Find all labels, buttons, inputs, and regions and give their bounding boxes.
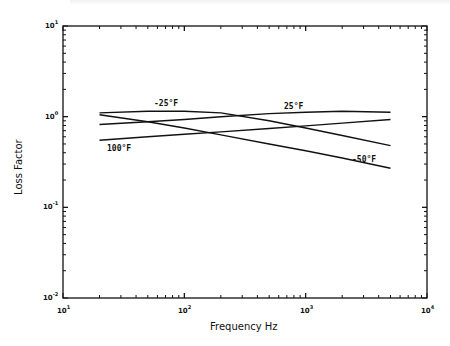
y-tick-10-minus2: 10-2 (43, 291, 59, 302)
x-tick-10-2: 102 (178, 304, 192, 315)
y-axis-title: Loss Factor (13, 138, 24, 195)
curve-label-25f: 25°F (284, 102, 303, 111)
x-tick-10-3: 103 (300, 304, 314, 315)
x-tick-labels: 101 102 103 104 (57, 304, 435, 315)
x-tick-10-4: 104 (421, 304, 435, 315)
y-tick-10-1: 101 (45, 19, 59, 30)
x-tick-10-1: 101 (57, 304, 71, 315)
y-tick-10-minus1: 10-1 (43, 200, 59, 211)
curve-label-minus25f: -25°F (154, 99, 178, 108)
data-curves (100, 111, 391, 168)
x-axis-title: Frequency Hz (210, 321, 278, 332)
curve-label-minus50f: -50°F (352, 155, 376, 164)
curve--25f (100, 111, 391, 145)
curve-label-100f: 100°F (107, 144, 131, 153)
y-tick-labels: 101 100 10-1 10-2 (43, 19, 59, 302)
y-tick-10-0: 100 (45, 110, 59, 121)
